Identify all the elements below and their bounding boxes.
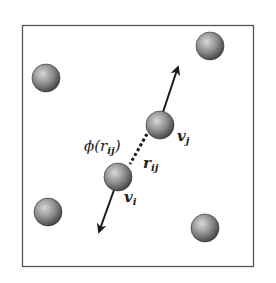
potential-label: ϕ(rij)	[84, 137, 121, 156]
particle-j	[146, 111, 174, 139]
particle-top-right	[196, 32, 224, 60]
particle-bottom-left	[34, 198, 62, 226]
particle-bottom-right	[191, 214, 219, 242]
particle-interaction-diagram: ϕ(rij) rij vj vi	[0, 0, 276, 283]
particle-top-left	[32, 64, 60, 92]
particle-i	[104, 163, 132, 191]
